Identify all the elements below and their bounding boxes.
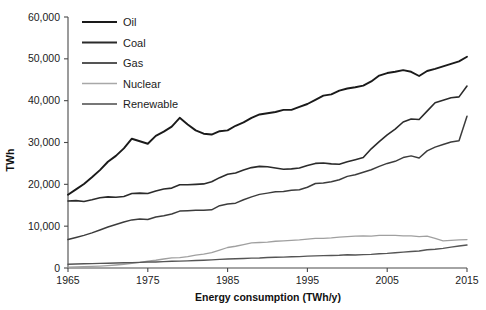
axes: 010,00020,00030,00040,00050,00060,000196… [28, 11, 479, 286]
y-tick-label: 50,000 [28, 52, 60, 64]
energy-consumption-chart: 010,00020,00030,00040,00050,00060,000196… [0, 0, 486, 310]
chart-canvas: 010,00020,00030,00040,00050,00060,000196… [0, 0, 486, 310]
y-tick-label: 20,000 [28, 178, 60, 190]
legend-label-renewable: Renewable [123, 98, 178, 110]
y-tick-label: 40,000 [28, 94, 60, 106]
chart-legend: OilCoalGasNuclearRenewable [82, 16, 178, 110]
series-line-renewable [68, 245, 467, 264]
y-axis-title: TWh [4, 149, 16, 172]
legend-label-coal: Coal [123, 37, 146, 49]
legend-label-gas: Gas [123, 57, 144, 69]
x-tick-label: 1995 [296, 274, 320, 286]
legend-label-nuclear: Nuclear [123, 78, 161, 90]
series-line-gas [68, 116, 467, 239]
y-tick-label: 10,000 [28, 220, 60, 232]
x-tick-label: 1975 [136, 274, 160, 286]
x-tick-label: 2015 [455, 274, 479, 286]
legend-label-oil: Oil [123, 16, 136, 28]
x-tick-label: 2005 [376, 274, 400, 286]
y-tick-label: 60,000 [28, 11, 60, 23]
x-tick-label: 1985 [216, 274, 240, 286]
x-tick-label: 1965 [56, 274, 80, 286]
x-axis-title: Energy consumption (TWh/y) [195, 291, 341, 303]
y-tick-label: 30,000 [28, 136, 60, 148]
y-tick-label: 0 [54, 262, 60, 274]
